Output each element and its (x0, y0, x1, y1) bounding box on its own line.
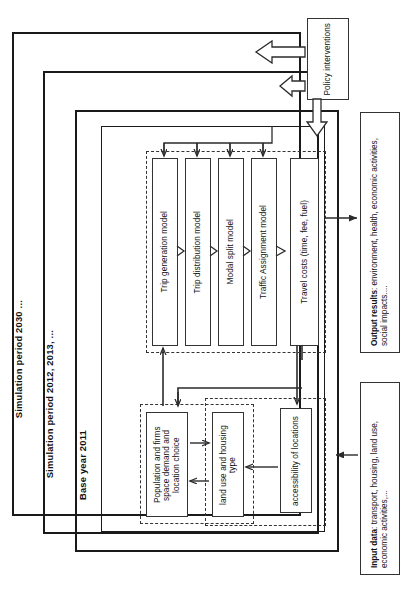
model-box-traffic-assignment: Traffic Assignment model (251, 158, 277, 346)
input-data-box: Input data: transport, housing, land use… (360, 382, 400, 575)
model-box-trip-generation: Trip generation model (152, 158, 178, 346)
model-box-trip-distribution: Trip distribution model (185, 158, 211, 346)
policy-interventions-label: Policy interventions (323, 23, 332, 96)
accessibility-label: accessibility of locations (291, 416, 300, 506)
output-results-label: Output results: environment, health, eco… (370, 120, 391, 346)
population-firms-label: Population and firms space demand and lo… (153, 416, 181, 514)
land-use-housing-label: land use and housing type (219, 416, 238, 514)
frame-label-base-year-2011: Base year 2011 (78, 430, 89, 502)
input-data-label: Input data: transport, housing, land use… (370, 390, 391, 568)
model-box-modal-split: Modal split model (218, 158, 244, 346)
model-box-travel-costs: Travel costs (time, fee, fuel) (290, 158, 319, 346)
frame-label-simulation-2012: Simulation period 2012, 2013, ... (45, 330, 56, 480)
landuse-box-accessibility: accessibility of locations (280, 408, 312, 513)
frame-label-simulation-2030: Simulation period 2030 ... (14, 300, 25, 420)
landuse-box-population-firms: Population and firms space demand and lo… (146, 412, 188, 517)
output-results-box: Output results: environment, health, eco… (360, 112, 400, 353)
diagram-canvas: Simulation period 2030 ... Simulation pe… (0, 0, 420, 599)
landuse-box-land-use-housing: land use and housing type (212, 412, 244, 517)
policy-interventions-box: Policy interventions (307, 18, 349, 100)
